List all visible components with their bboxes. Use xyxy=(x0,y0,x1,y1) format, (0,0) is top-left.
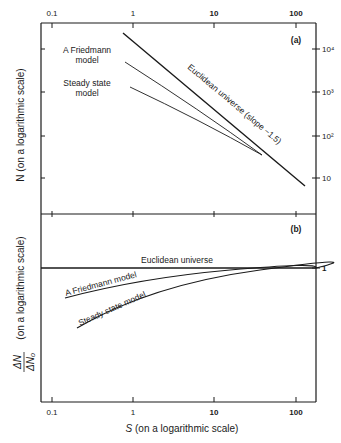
label-euclidean-a: Euclidean universe (slope −1.5) xyxy=(186,62,284,146)
figure: 0.1 1 10 100 10⁴ 10³ 10² 10 1 0.1 1 10 1… xyxy=(0,0,341,443)
label-friedmann-a-1: A Friedmann xyxy=(63,45,111,55)
y-axis-label-b-numerator: ΔN xyxy=(12,354,23,370)
top-tick-1: 1 xyxy=(131,9,136,18)
label-friedmann-a-2: model xyxy=(75,55,98,65)
top-tick-0.1: 0.1 xyxy=(46,9,58,18)
bottom-tick-0.1: 0.1 xyxy=(46,408,58,417)
steady-state-curve-b xyxy=(77,262,334,328)
bottom-tick-1: 1 xyxy=(131,408,136,417)
euclidean-line-a xyxy=(123,33,305,186)
bottom-tick-100: 100 xyxy=(289,408,303,417)
panel-a-curves xyxy=(123,33,305,186)
y-axis-label-b: (on a logarithmic scale) ΔN ΔN₀ xyxy=(12,236,36,372)
label-steady-a-2: model xyxy=(75,88,98,98)
steady-state-curve-a xyxy=(130,87,262,155)
label-euclidean-b: Euclidean universe xyxy=(141,255,213,265)
y-axis-label-a: N (on a logarithmic scale) xyxy=(15,68,26,181)
x-axis-label: S (on a logarithmic scale) xyxy=(126,423,239,434)
panel-label-b: (b) xyxy=(291,224,302,234)
label-steady-a-1: Steady state xyxy=(63,78,111,88)
panel-label-a: (a) xyxy=(291,35,302,45)
right-tick-10e2: 10² xyxy=(322,132,334,141)
bottom-tick-10: 10 xyxy=(210,408,219,417)
right-tick-10e4: 10⁴ xyxy=(322,45,335,54)
top-tick-100: 100 xyxy=(289,9,303,18)
top-tick-10: 10 xyxy=(210,9,219,18)
right-tick-10e3: 10³ xyxy=(322,88,334,97)
y-axis-label-b-denominator: ΔN₀ xyxy=(25,353,36,372)
right-tick-10: 10 xyxy=(322,174,331,183)
y-axis-label-b-rest: (on a logarithmic scale) xyxy=(15,236,26,339)
label-steady-b: Steady state model xyxy=(77,289,148,328)
